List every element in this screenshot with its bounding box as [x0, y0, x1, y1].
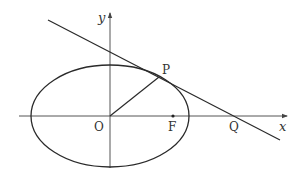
- y-axis-label: y: [97, 10, 106, 25]
- diagram-canvas: y x O P F Q: [0, 0, 299, 181]
- ellipse-diagram: y x O P F Q: [0, 0, 299, 181]
- point-p-label: P: [162, 63, 170, 77]
- point-q-label: Q: [229, 120, 239, 134]
- origin-label: O: [94, 120, 104, 134]
- x-axis-label: x: [279, 119, 287, 134]
- focus-point: [171, 114, 174, 117]
- focus-label: F: [168, 120, 176, 134]
- segment-op: [110, 77, 159, 116]
- tangent-line: [48, 20, 280, 140]
